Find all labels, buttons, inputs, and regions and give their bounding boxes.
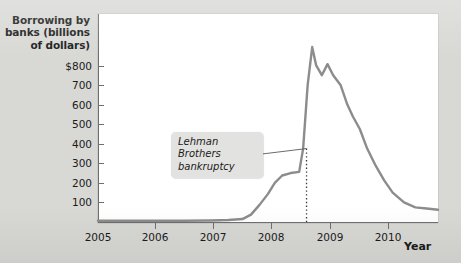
x-tick-label-2009: 2009 [305, 231, 355, 243]
y-tick-label-800: $800 [36, 60, 92, 72]
y-tick-mark-600 [98, 105, 104, 106]
y-axis-title-line-2: banks (billions [2, 26, 90, 38]
y-tick-mark-200 [98, 183, 104, 184]
annotation-lehman-brothers-bankruptcy: Lehman Brothers bankruptcy [171, 132, 263, 178]
y-axis-title-line-1: Borrowing by [2, 14, 90, 26]
x-tick-mark-2008 [271, 223, 272, 229]
y-tick-label-100: 100 [36, 196, 92, 208]
y-axis-title: Borrowing by banks (billions of dollars) [2, 14, 90, 51]
x-tick-label-2006: 2006 [130, 231, 180, 243]
y-tick-mark-300 [98, 163, 104, 164]
x-tick-label-2008: 2008 [246, 231, 296, 243]
y-tick-mark-400 [98, 144, 104, 145]
y-tick-label-500: 500 [36, 118, 92, 130]
x-tick-mark-2010 [388, 223, 389, 229]
y-tick-label-700: 700 [36, 79, 92, 91]
y-tick-mark-700 [98, 85, 104, 86]
x-tick-label-2005: 2005 [73, 231, 123, 243]
y-tick-mark-100 [98, 202, 104, 203]
y-tick-mark-500 [98, 124, 104, 125]
y-axis-title-line-3: of dollars) [2, 39, 90, 51]
x-tick-label-2007: 2007 [188, 231, 238, 243]
figure-panel: Borrowing by banks (billions of dollars)… [0, 0, 461, 263]
y-tick-label-200: 200 [36, 177, 92, 189]
annotation-line-2: bankruptcy [178, 161, 258, 173]
x-axis-title: Year [404, 240, 431, 253]
x-tick-mark-2007 [213, 223, 214, 229]
y-tick-mark-800 [98, 66, 104, 67]
y-tick-label-600: 600 [36, 99, 92, 111]
y-tick-label-400: 400 [36, 138, 92, 150]
y-tick-label-300: 300 [36, 157, 92, 169]
x-tick-mark-2009 [330, 223, 331, 229]
x-tick-mark-2006 [155, 223, 156, 229]
annotation-line-1: Lehman Brothers [178, 136, 258, 161]
plot-area [98, 14, 438, 223]
